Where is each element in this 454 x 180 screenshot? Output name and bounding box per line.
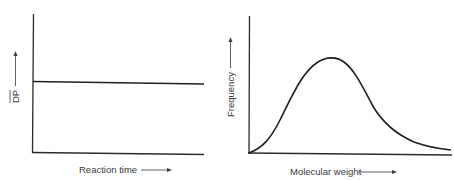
right-chart: Frequency Molecular weight <box>225 16 452 177</box>
left-chart: DP Reaction time <box>10 14 204 175</box>
right-x-label-text: Molecular weight <box>290 166 362 177</box>
left-y-arrow-head-icon <box>14 51 18 56</box>
left-y-label: DP <box>10 51 21 103</box>
right-y-arrow-head-icon <box>229 37 233 42</box>
figure: DP Reaction time Frequency Molecular wei… <box>0 0 454 180</box>
left-x-label-text: Reaction time <box>79 164 137 175</box>
left-y-label-text: DP <box>10 90 21 103</box>
left-y-axis <box>33 14 34 153</box>
right-y-label-text: Frequency <box>225 72 236 117</box>
right-distribution-curve <box>249 58 451 153</box>
left-x-arrow-head-icon <box>167 168 172 172</box>
left-x-axis <box>32 153 204 155</box>
right-x-arrow-head-icon <box>392 170 397 174</box>
left-dp-line <box>33 82 204 85</box>
right-y-axis <box>249 16 250 154</box>
right-x-label: Molecular weight <box>290 166 397 177</box>
right-y-label: Frequency <box>225 37 236 117</box>
left-x-label: Reaction time <box>79 164 172 175</box>
right-x-axis <box>248 153 452 155</box>
